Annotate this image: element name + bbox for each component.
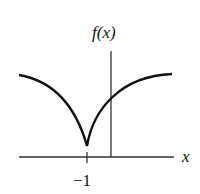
x-axis-label: x	[182, 148, 190, 165]
curve	[19, 74, 172, 146]
y-axis-label: f(x)	[92, 24, 116, 41]
tick-label: −1	[73, 172, 91, 189]
chart: f(x) x −1	[0, 0, 200, 194]
